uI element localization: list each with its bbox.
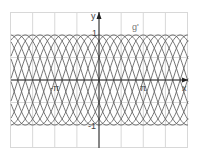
y-tick-neg1: -1 [88,121,96,131]
sinusoid-family-plot: y x g' 1 -1 -π π [0,0,197,157]
x-tick-neg-pi: -π [50,83,59,93]
axes [11,12,188,148]
curve-label: g' [132,22,139,32]
y-axis-arrow-icon [97,12,102,19]
y-axis-label: y [91,11,96,21]
x-tick-pi: π [140,83,146,93]
y-tick-1: 1 [92,28,97,38]
x-axis-label: x [182,83,187,93]
